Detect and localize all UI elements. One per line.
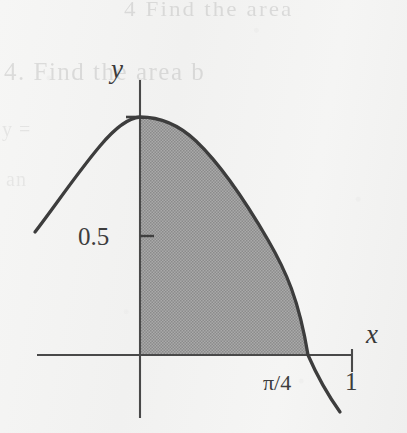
shaded-area-region bbox=[140, 117, 308, 355]
y-axis-label: y bbox=[108, 54, 123, 84]
scanned-figure: 4 Find the area 4. Find the area b y = a… bbox=[0, 0, 407, 433]
x-axis-label: x bbox=[365, 319, 378, 349]
y-tick-label-0-5: 0.5 bbox=[78, 223, 109, 250]
x-tick-label-1: 1 bbox=[345, 368, 358, 395]
plot-canvas: y x 0.5 π/4 1 bbox=[0, 0, 407, 433]
x-tick-label-pi-over-4: π/4 bbox=[263, 370, 291, 395]
